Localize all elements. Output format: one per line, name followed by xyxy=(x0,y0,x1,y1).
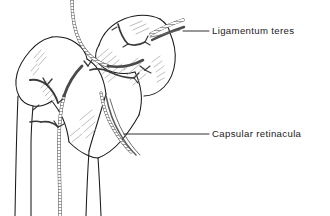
shading-hatch-marks xyxy=(31,21,165,142)
femoral-shaft-outline xyxy=(86,151,101,216)
ligamentum-teres-vessel xyxy=(150,20,184,40)
label-capsular-retinacula: Capsular retinacula xyxy=(212,129,301,139)
ascending-cervical-vessel xyxy=(59,66,82,216)
intertrochanteric-outline xyxy=(31,101,69,216)
femoral-shaft-lateral-outline xyxy=(15,96,18,216)
label-ligamentum-teres: Ligamentum teres xyxy=(212,26,294,36)
figure-canvas: Ligamentum teres Capsular retinacula xyxy=(0,0,330,216)
retinacular-vessel-arcade xyxy=(72,0,143,67)
